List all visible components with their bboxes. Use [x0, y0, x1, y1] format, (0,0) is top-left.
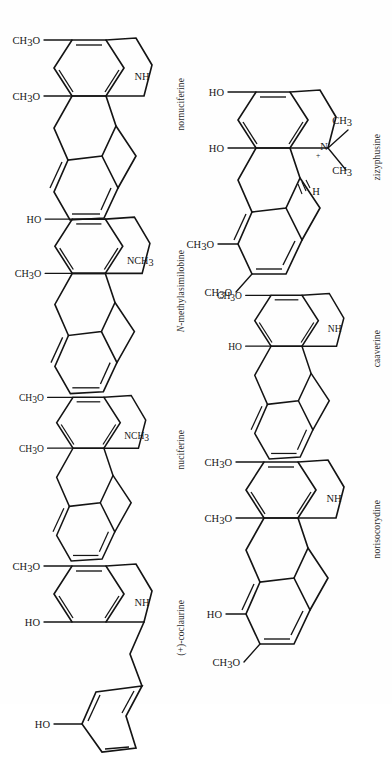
- atom-label-ch3o: CH3O: [187, 239, 215, 252]
- atom-label-ch3o: CH3O: [19, 443, 44, 456]
- atom-label-ho: HO: [25, 617, 41, 628]
- atom-label-ch3o: CH3O: [13, 91, 41, 104]
- atom-label-ho: HO: [209, 87, 225, 98]
- atom-label-ch3o: CH3O: [19, 392, 44, 405]
- atom-label-n: N: [320, 141, 328, 152]
- atom-label-ch3: CH3: [332, 165, 352, 178]
- atom-label-nh: NH: [134, 71, 150, 82]
- atom-label-ch3: CH3: [332, 115, 352, 128]
- atom-label-ho: HO: [207, 609, 223, 620]
- atom-label-ho: HO: [228, 341, 242, 352]
- atom-label-ho: HO: [209, 143, 225, 154]
- atom-label-h: H: [312, 186, 320, 197]
- atom-label-ch3o: CH3O: [213, 657, 241, 670]
- caption-nornuciferine: nornuciferine: [176, 78, 186, 130]
- atom-label-ho: HO: [35, 719, 51, 730]
- caption-nuciferine: nuciferine: [176, 430, 186, 470]
- structure-norisocorydine: NH CH3O CH3O HO CH3O: [208, 432, 364, 757]
- atom-label-nch3: NCH3: [124, 430, 149, 443]
- caption-zizyphusine: zizyphusine: [372, 134, 382, 180]
- atom-label-ho: HO: [27, 214, 42, 225]
- caption-coclaurine: (+)-coclaurine: [176, 600, 186, 656]
- atom-label-ch3o: CH3O: [205, 513, 233, 526]
- atom-label-ch3o: CH3O: [13, 35, 41, 48]
- caption-caaverine: caaverine: [372, 330, 382, 367]
- structure-coclaurine: NH CH3O HO HO: [8, 536, 158, 757]
- atom-label-ch3o: CH3O: [205, 457, 233, 470]
- atom-label-charge-plus: +: [316, 151, 320, 160]
- caption-n-methylasimilobine: N-methylasimilobine: [176, 250, 186, 332]
- atom-label-nh: NH: [328, 323, 342, 334]
- caption-norisocorydine: norisocorydine: [372, 500, 382, 558]
- atom-label-nh: NH: [134, 597, 150, 608]
- atom-label-ch3o: CH3O: [217, 290, 242, 303]
- atom-label-ch3o: CH3O: [15, 268, 42, 281]
- atom-label-nh: NH: [326, 493, 342, 504]
- atom-label-ch3o: CH3O: [13, 561, 41, 574]
- caption-italic-prefix: N: [176, 326, 186, 332]
- atom-label-nch3: NCH3: [127, 255, 154, 268]
